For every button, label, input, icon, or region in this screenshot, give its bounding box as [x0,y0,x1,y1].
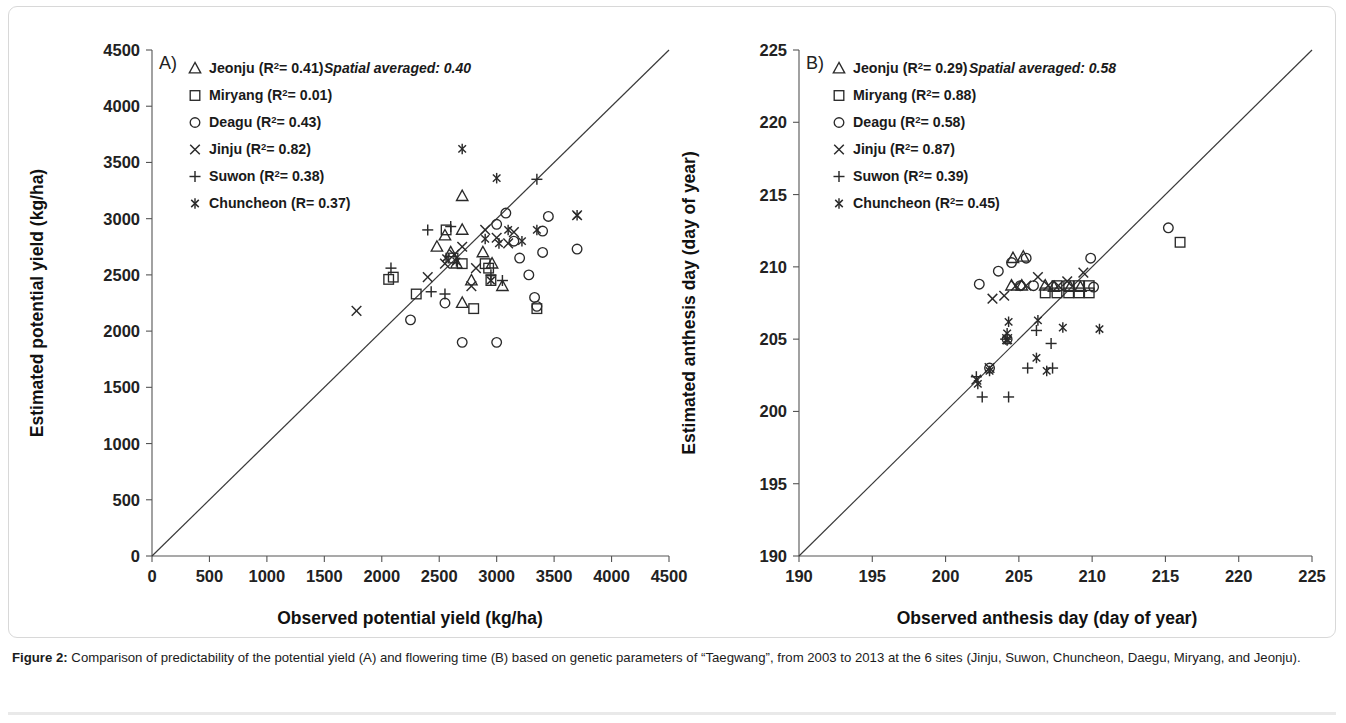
data-point-jeonju [477,246,488,256]
y-tick-label: 0 [131,547,140,565]
chart-panel-a: 0500100015002000250030003500400045000500… [9,7,709,639]
data-point-jinju [467,281,477,291]
y-tick-label: 1500 [103,378,140,396]
x-tick-label: 190 [785,567,813,585]
panel-letter-a: A) [159,53,177,73]
legend-marker-chuncheon [835,198,843,209]
y-tick-label: 3500 [103,153,140,171]
data-point-jinju [503,239,513,249]
data-point-suwon [1031,325,1042,336]
legend-marker-jinju [834,145,844,155]
data-point-jinju [423,272,433,282]
data-point-chuncheon [458,144,466,155]
data-point-jeonju [457,190,468,200]
data-point-suwon [971,371,982,382]
data-point-suwon [439,288,450,299]
legend-marker-jeonju [189,63,200,73]
data-point-miryang [1175,237,1185,247]
x-axis-title-a: Observed potential yield (kg/ha) [277,608,542,628]
x-tick-label: 205 [1005,567,1033,585]
legend-label-jeonju: Jeonju (R2= 0.41) [209,60,324,76]
y-tick-label: 4000 [103,97,140,115]
y-tick-label: 215 [759,186,787,204]
data-point-jinju [988,294,998,304]
legend-marker-miryang [190,91,200,101]
data-point-deagu [492,219,502,229]
y-tick-label: 210 [759,258,787,276]
legend-label-jinju: Jinju (R2= 0.82) [209,141,311,157]
x-tick-label: 210 [1078,567,1106,585]
chart-panel-b: 1901952002052102152202251901952002052102… [669,7,1337,639]
legend-a: Jeonju (R2= 0.41)Miryang (R2= 0.01)Deagu… [189,60,471,211]
data-point-suwon [426,286,437,297]
data-point-deagu [1164,223,1174,233]
y-tick-label: 4500 [103,41,140,59]
data-point-deagu [406,315,416,325]
data-point-miryang [532,304,542,314]
legend-marker-suwon [833,171,844,182]
data-points-a [352,144,582,347]
y-axis-title-a: Estimated potential yield (kg/ha) [27,169,47,437]
x-tick-label: 200 [932,567,960,585]
legend-label-jeonju: Jeonju (R2= 0.29) [853,60,968,76]
data-point-chuncheon [481,234,489,245]
caption-label: Figure 2: [12,650,68,665]
data-point-jeonju [457,224,468,234]
legend-marker-jinju [190,145,200,155]
x-tick-label: 220 [1225,567,1253,585]
data-point-chuncheon [1033,353,1041,364]
legend-label-jinju: Jinju (R2= 0.87) [853,141,955,157]
data-point-deagu [530,293,540,303]
legend-marker-jeonju [833,63,844,73]
data-point-chuncheon [533,225,541,236]
data-point-deagu [532,302,542,312]
y-axis-title-b: Estimated anthesis day (day of year) [679,151,699,454]
x-tick-label: 1000 [249,567,286,585]
data-point-jeonju [457,297,468,307]
x-tick-label: 195 [859,567,887,585]
x-tick-label: 2500 [421,567,458,585]
x-tick-label: 3000 [478,567,515,585]
data-point-deagu [492,338,502,348]
legend-label-chuncheon: Chuncheon (R= 0.37) [209,195,351,211]
y-tick-label: 1000 [103,435,140,453]
figure-frame: 0500100015002000250030003500400045000500… [8,6,1336,638]
data-point-deagu [457,338,467,348]
x-axis-title-b: Observed anthesis day (day of year) [897,608,1198,628]
legend-marker-deagu [834,118,844,128]
x-tick-label: 4000 [593,567,630,585]
legend-marker-chuncheon [191,198,199,209]
x-tick-label: 1500 [306,567,343,585]
data-point-jinju [457,242,467,252]
y-tick-label: 200 [759,402,787,420]
data-point-chuncheon [1034,315,1042,326]
y-tick-label: 500 [112,491,140,509]
y-tick-label: 205 [759,330,787,348]
data-point-jinju [1021,281,1031,291]
legend-label-deagu: Deagu (R2= 0.58) [853,114,965,130]
legend-label-suwon: Suwon (R2= 0.38) [209,168,325,184]
data-point-suwon [497,275,508,286]
y-tick-label: 2000 [103,322,140,340]
legend-label-deagu: Deagu (R2= 0.43) [209,114,321,130]
x-tick-label: 500 [196,567,224,585]
data-point-deagu [572,244,582,254]
legend-label-miryang: Miryang (R2= 0.01) [209,87,332,103]
data-point-deagu [538,248,548,258]
legend-label-chuncheon: Chuncheon (R2= 0.45) [853,195,1000,211]
data-point-chuncheon [1005,317,1013,328]
data-point-chuncheon [1096,324,1104,335]
data-point-jinju [480,225,490,235]
legend-label-suwon: Suwon (R2= 0.39) [853,168,969,184]
data-point-chuncheon [487,275,495,286]
data-point-deagu [440,298,450,308]
data-point-suwon [1046,338,1057,349]
y-tick-label: 220 [759,113,787,131]
data-point-deagu [515,253,525,263]
data-point-chuncheon [493,173,501,184]
data-point-suwon [445,221,456,232]
x-tick-label: 225 [1298,567,1326,585]
data-point-deagu [974,279,984,289]
data-point-chuncheon [1059,322,1067,333]
data-point-jeonju [1018,251,1029,261]
